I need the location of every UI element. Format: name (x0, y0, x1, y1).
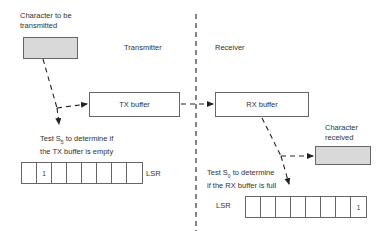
connector-lines (0, 0, 389, 231)
rxbuffer-to-branch-arrow (262, 118, 281, 156)
branch-to-txtest-arrow (57, 108, 59, 124)
branch-to-txbuffer-arrow (57, 104, 87, 108)
branch-to-rxtest-arrow (281, 156, 289, 184)
source-to-branch-arrow (43, 59, 57, 108)
